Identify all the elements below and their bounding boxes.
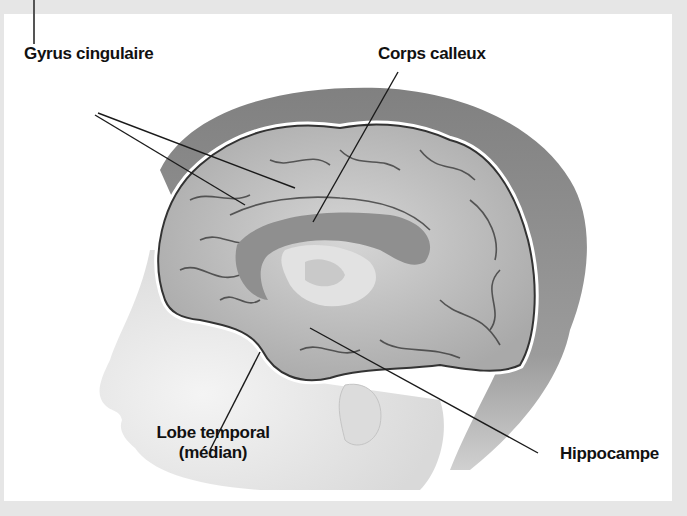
figure-frame: Gyrus cingulaire Corps calleux Lobe temp… — [0, 0, 687, 516]
label-hippocampe: Hippocampe — [560, 444, 659, 464]
label-lobe-temporal: Lobe temporal (médian) — [147, 423, 279, 463]
brain-illustration — [0, 0, 687, 516]
label-corps-calleux: Corps calleux — [378, 44, 486, 64]
label-lobe-temporal-line1: Lobe temporal — [147, 423, 279, 443]
label-lobe-temporal-line2: (médian) — [147, 443, 279, 463]
label-gyrus-cingulaire: Gyrus cingulaire — [24, 44, 153, 64]
